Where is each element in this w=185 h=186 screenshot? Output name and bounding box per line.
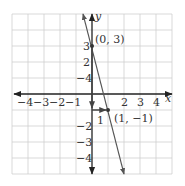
y-tick: −3 [76,136,92,149]
coordinate-plane: x y −4 −3 −2 −1 2 3 4 3 2 −4 −2 −3 −4 (0… [0,0,185,186]
x-tick: −4 [17,96,33,109]
point-1-neg1 [106,108,110,112]
x-tick: −2 [49,96,65,109]
x-tick: −3 [33,96,49,109]
x-tick: 3 [137,96,144,109]
point-0-3 [90,44,94,48]
x-axis-label: x [165,92,172,105]
y-tick: −2 [76,120,92,133]
y-tick: 2 [83,56,90,69]
run-label: 1 [97,114,104,127]
y-tick: 3 [83,40,90,53]
y-tick: −4 [76,72,92,85]
x-tick: 2 [121,96,128,109]
y-tick: −4 [76,152,92,165]
y-axis-label: y [94,10,102,23]
point-label-0-3: (0, 3) [95,33,125,46]
point-label-1-neg1: (1, −1) [114,112,153,125]
x-tick: −1 [65,96,81,109]
x-tick: 4 [153,96,160,109]
